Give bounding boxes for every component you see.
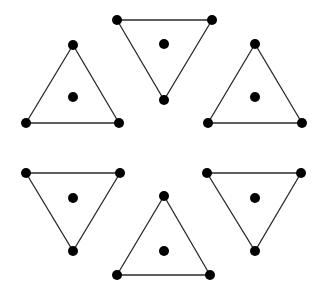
vertex-dot xyxy=(296,168,306,178)
triangle-outline xyxy=(26,45,119,123)
vertex-dot xyxy=(202,168,212,178)
triangle-outline xyxy=(207,173,301,251)
vertex-dot xyxy=(112,15,122,25)
triangle-outline xyxy=(26,173,120,251)
vertex-dot xyxy=(115,168,125,178)
vertex-dot xyxy=(112,270,122,280)
triangle-top xyxy=(112,15,217,105)
triangle-outline xyxy=(117,196,210,275)
triangle-outline xyxy=(117,20,212,100)
triangle-lower-right xyxy=(202,168,306,256)
vertex-dot xyxy=(21,168,31,178)
vertex-dot xyxy=(250,246,260,256)
center-dot xyxy=(68,193,78,203)
center-dot xyxy=(250,193,260,203)
vertex-dot xyxy=(297,118,307,128)
vertex-dot xyxy=(68,40,78,50)
center-dot xyxy=(68,92,78,102)
triangle-lower-left xyxy=(21,168,125,256)
center-dot xyxy=(159,246,169,256)
vertex-dot xyxy=(159,95,169,105)
vertex-dot xyxy=(207,15,217,25)
triangle-upper-left xyxy=(21,40,124,128)
vertex-dot xyxy=(114,118,124,128)
vertex-dot xyxy=(21,118,31,128)
vertex-dot xyxy=(203,118,213,128)
vertex-dot xyxy=(159,191,169,201)
hexagonal-triangle-diagram xyxy=(0,0,320,289)
center-dot xyxy=(159,39,169,49)
vertex-dot xyxy=(68,246,78,256)
triangle-bottom xyxy=(112,191,215,280)
triangle-upper-right xyxy=(203,39,307,128)
center-dot xyxy=(250,92,260,102)
triangle-outline xyxy=(208,44,302,123)
vertex-dot xyxy=(250,39,260,49)
vertex-dot xyxy=(205,270,215,280)
